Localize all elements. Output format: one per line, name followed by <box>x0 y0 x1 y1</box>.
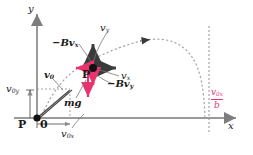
asymptote-numerator: v0x <box>211 88 223 98</box>
v0x-sub: 0x <box>67 132 74 139</box>
weight-label: mg <box>64 98 82 108</box>
drag-y-sub: y <box>130 82 134 89</box>
v0x-label: v0x <box>61 129 74 140</box>
origin-point-label: P <box>18 119 26 130</box>
y-axis-label: y <box>28 4 34 14</box>
origin-zero-label: 0 <box>40 119 48 130</box>
initial-velocity-construction <box>26 89 72 128</box>
particle-point-label: P <box>82 69 90 80</box>
vy-label: vy <box>100 23 109 34</box>
asymptote-value-label: v0x b <box>211 88 223 110</box>
v0-label: v0 <box>44 70 54 81</box>
projectile-motion-diagram: y x P 0 P vy vx −Bvx −Bvy mg v0 v0y v0x … <box>0 0 253 155</box>
drag-x-label: −Bvx <box>52 38 78 49</box>
x-axis-label: x <box>228 121 234 131</box>
v0-sub: 0 <box>50 73 54 80</box>
v0y-sub: 0y <box>12 87 19 94</box>
asymptote-denominator: b <box>211 101 223 110</box>
drag-x-sub: x <box>75 41 79 48</box>
vy-sub: y <box>106 26 110 33</box>
drag-y-label: −Bvy <box>107 79 133 90</box>
v0y-label: v0y <box>6 84 19 95</box>
